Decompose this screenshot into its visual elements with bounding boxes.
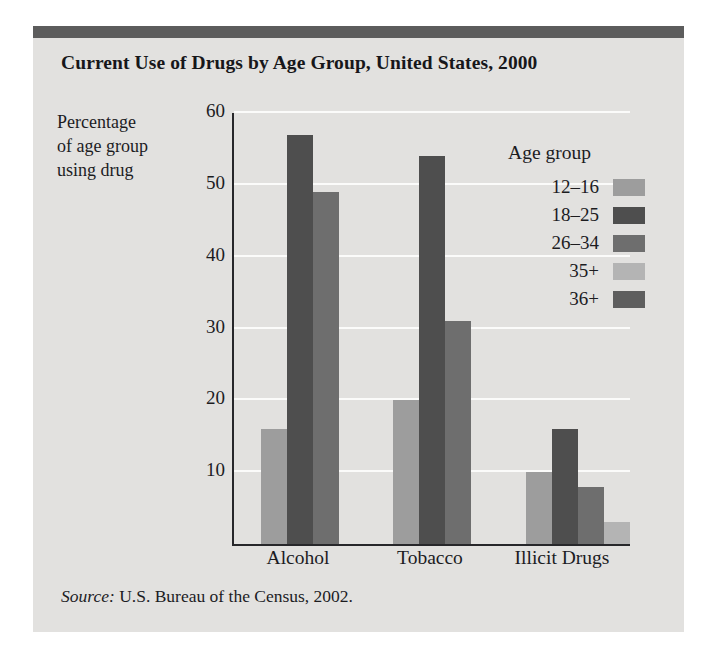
- bar-group: [393, 113, 471, 544]
- legend-item-label: 36+: [569, 288, 599, 310]
- bar: [526, 472, 552, 544]
- bar: [419, 156, 445, 544]
- y-tick-label-10: 10: [206, 459, 225, 481]
- y-axis-label: Percentage of age group using drug: [57, 110, 207, 182]
- legend-item-label: 12–16: [552, 176, 600, 198]
- bar: [552, 429, 578, 544]
- y-tick-label-50: 50: [206, 172, 225, 194]
- legend-items: 12–1618–2526–3435+36+: [470, 173, 645, 313]
- legend-item: 35+: [470, 257, 645, 285]
- legend-swatch: [613, 235, 645, 252]
- bar: [261, 429, 287, 544]
- bar: [313, 192, 339, 544]
- source-label: Source:: [61, 586, 115, 606]
- bar: [445, 321, 471, 544]
- bar-group: [261, 113, 339, 544]
- legend-item: 18–25: [470, 201, 645, 229]
- legend-title: Age group: [470, 142, 645, 164]
- bar: [604, 522, 630, 544]
- figure-top-rule: [33, 26, 684, 38]
- x-tick-label: Alcohol: [232, 547, 364, 569]
- legend-swatch: [613, 291, 645, 308]
- legend: Age group 12–1618–2526–3435+36+: [470, 142, 645, 313]
- figure-root: Current Use of Drugs by Age Group, Unite…: [0, 0, 717, 656]
- bar: [393, 400, 419, 544]
- legend-swatch: [613, 263, 645, 280]
- y-tick-label-30: 30: [206, 316, 225, 338]
- legend-item: 36+: [470, 285, 645, 313]
- legend-swatch: [613, 207, 645, 224]
- legend-swatch: [613, 179, 645, 196]
- y-axis-label-line-3: using drug: [57, 158, 207, 182]
- x-tick-label: Tobacco: [364, 547, 496, 569]
- legend-item-label: 26–34: [552, 232, 600, 254]
- y-axis-label-line-1: Percentage: [57, 110, 207, 134]
- y-tick-label-20: 20: [206, 387, 225, 409]
- y-axis-label-line-2: of age group: [57, 134, 207, 158]
- legend-item-label: 18–25: [552, 204, 600, 226]
- x-tick-label: Illicit Drugs: [496, 547, 628, 569]
- source-text: U.S. Bureau of the Census, 2002.: [115, 586, 353, 606]
- x-axis-line: [232, 544, 630, 546]
- y-tick-label-40: 40: [206, 244, 225, 266]
- bar: [578, 487, 604, 544]
- legend-item: 12–16: [470, 173, 645, 201]
- source-note: Source: U.S. Bureau of the Census, 2002.: [61, 586, 353, 607]
- legend-item-label: 35+: [569, 260, 599, 282]
- y-tick-label-60: 60: [206, 100, 225, 122]
- bar: [287, 135, 313, 544]
- legend-item: 26–34: [470, 229, 645, 257]
- chart-title: Current Use of Drugs by Age Group, Unite…: [61, 52, 661, 74]
